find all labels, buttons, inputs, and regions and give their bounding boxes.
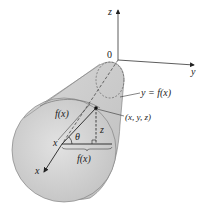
y-axis bbox=[118, 60, 194, 65]
origin-label: 0 bbox=[107, 49, 112, 60]
x-axis-label: x bbox=[34, 165, 40, 176]
solid-of-revolution-diagram: z y 0 y = f(x) (x, y, z) f(x) f(x) z θ x… bbox=[0, 0, 197, 206]
z-axis-label: z bbox=[107, 6, 112, 17]
angle-label: θ bbox=[75, 131, 80, 142]
height-label: z bbox=[99, 124, 104, 135]
slant-radius-label: f(x) bbox=[55, 108, 70, 120]
coordinate-axes bbox=[118, 10, 194, 65]
solid-body bbox=[12, 62, 124, 202]
y-axis-label: y bbox=[190, 66, 196, 77]
curve-label: y = f(x) bbox=[140, 87, 172, 99]
x-position-label: x bbox=[52, 137, 58, 148]
horizontal-radius-label: f(x) bbox=[77, 153, 92, 165]
point-label: (x, y, z) bbox=[125, 112, 151, 122]
